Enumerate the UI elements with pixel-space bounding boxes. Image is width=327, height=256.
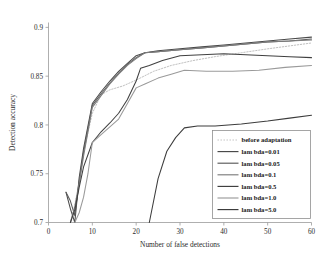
legend-label[interactable]: lam bda=5.0 xyxy=(242,206,278,213)
line-chart-canvas: 0102030405060 0.70.750.80.850.9 Number o… xyxy=(0,0,327,256)
x-tick-label: 10 xyxy=(89,228,97,236)
x-axis-ticks: 0102030405060 xyxy=(47,223,316,237)
legend-label[interactable]: lam bda=0.01 xyxy=(242,148,280,155)
y-tick-label: 0.75 xyxy=(30,170,43,178)
legend-label[interactable]: lam bda=0.5 xyxy=(242,183,278,190)
legend-label[interactable]: lam bda=0.1 xyxy=(242,171,277,178)
x-tick-label: 60 xyxy=(308,228,316,236)
chart-legend[interactable]: before adaptationlam bda=0.01lam bda=0.0… xyxy=(213,131,311,219)
legend-label[interactable]: lam bda=1.0 xyxy=(242,194,278,201)
x-tick-label: 20 xyxy=(133,228,141,236)
chart-figure: 0102030405060 0.70.750.80.850.9 Number o… xyxy=(0,0,327,256)
legend-label[interactable]: lam bda=0.05 xyxy=(242,160,281,167)
y-tick-label: 0.9 xyxy=(34,24,43,32)
x-tick-label: 40 xyxy=(220,228,228,236)
y-axis-label: Detection accuracy xyxy=(8,94,17,151)
x-axis-label: Number of false detections xyxy=(140,240,220,249)
y-tick-label: 0.7 xyxy=(34,219,43,227)
y-tick-label: 0.8 xyxy=(34,122,43,130)
x-tick-label: 50 xyxy=(264,228,272,236)
legend-label[interactable]: before adaptation xyxy=(242,136,292,143)
x-tick-label: 30 xyxy=(176,228,184,236)
x-tick-label: 0 xyxy=(47,228,51,236)
y-tick-label: 0.85 xyxy=(30,73,43,81)
y-axis-ticks: 0.70.750.80.850.9 xyxy=(30,24,48,227)
